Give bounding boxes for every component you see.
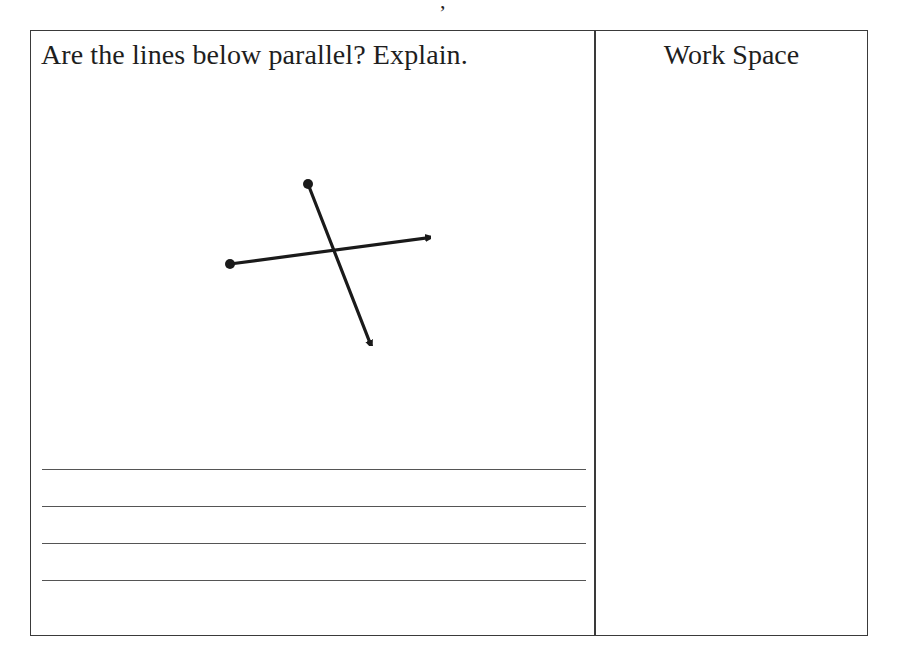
question-prompt: Are the lines below parallel? Explain. [41,39,468,71]
worksheet-table: Are the lines below parallel? Explain. [30,30,868,636]
ray-vertical [303,179,372,346]
answer-line-2[interactable] [42,506,586,507]
cropped-header-fragment: , [440,0,446,14]
ray-horizontal [225,237,431,269]
answer-line-4[interactable] [42,580,586,581]
ray-endpoint-dot [225,259,235,269]
question-cell: Are the lines below parallel? Explain. [31,31,594,635]
work-space-title: Work Space [596,39,867,71]
answer-line-1[interactable] [42,469,586,470]
ray-endpoint-dot [303,179,313,189]
work-space-cell[interactable]: Work Space [596,31,867,635]
answer-line-3[interactable] [42,543,586,544]
intersecting-rays-diagram [211,166,431,346]
